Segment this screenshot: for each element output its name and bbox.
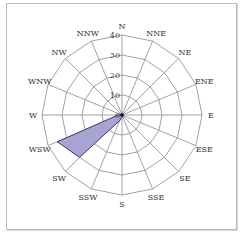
direction-label-nnw: NNW [77, 29, 100, 38]
direction-label-sw: SW [52, 174, 66, 183]
direction-label-ssw: SSW [78, 193, 98, 202]
radial-tick-label: 30 [110, 51, 120, 60]
radial-tick-label: 20 [110, 71, 120, 80]
direction-label-n: N [119, 22, 126, 31]
radial-tick-label: 10 [110, 91, 120, 100]
radial-tick-label: 40 [110, 31, 120, 40]
direction-label-e: E [208, 111, 214, 120]
center-dot [120, 113, 124, 117]
direction-label-ese: ESE [196, 145, 213, 154]
direction-label-s: S [119, 200, 124, 209]
direction-label-w: W [29, 111, 38, 120]
grid-spoke [122, 58, 179, 115]
grid-spoke [122, 115, 179, 172]
direction-label-sse: SSE [148, 193, 165, 202]
direction-label-nne: NNE [146, 29, 166, 38]
direction-label-wsw: WSW [29, 145, 52, 154]
radial-tick-label: 0 [115, 111, 120, 120]
wind-rose-chart: 010203040NNNENEENEEESESESSESSSWSWWSWWWNW… [0, 0, 242, 235]
direction-label-wnw: WNW [28, 77, 52, 86]
direction-label-se: SE [179, 174, 190, 183]
direction-label-nw: NW [51, 48, 67, 57]
direction-label-ne: NE [179, 48, 192, 57]
grid-spoke [65, 58, 122, 115]
direction-label-ene: ENE [195, 77, 214, 86]
